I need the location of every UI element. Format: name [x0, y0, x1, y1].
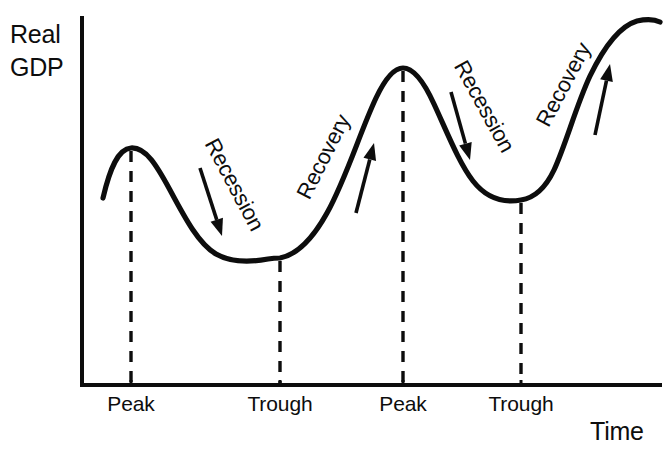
- arrow-head-up: [600, 64, 613, 82]
- arrow-head-up: [363, 143, 376, 161]
- arrow-head-down: [211, 218, 223, 236]
- business-cycle-chart: Real GDP Time PeakTroughPeakTrough Reces…: [0, 0, 667, 451]
- x-axis-tick-label: Trough: [488, 392, 553, 415]
- phase-label-recession: Recession: [449, 56, 520, 156]
- arrow-shaft-up: [356, 159, 370, 213]
- x-axis-tick-label: Peak: [107, 392, 155, 415]
- arrow-shaft-down: [200, 168, 217, 220]
- arrow-shaft-up: [595, 81, 606, 135]
- x-axis-tick-label: Peak: [379, 392, 427, 415]
- x-axis-tick-labels: PeakTroughPeakTrough: [107, 392, 553, 415]
- x-axis-tick-label: Trough: [247, 392, 312, 415]
- business-cycle-figure: Real GDP Time PeakTroughPeakTrough Reces…: [0, 0, 667, 451]
- x-axis-label: Time: [590, 417, 644, 445]
- y-axis-label-line1: Real: [10, 20, 61, 48]
- arrow-shaft-down: [451, 92, 465, 144]
- phase-label-recession: Recession: [200, 134, 269, 235]
- phase-label-recovery: Recovery: [291, 110, 355, 203]
- y-axis-label-line2: GDP: [10, 53, 64, 81]
